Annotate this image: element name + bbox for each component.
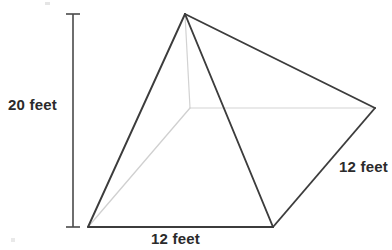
base-front-dimension-label: 12 feet — [151, 231, 200, 246]
base-right-dimension-label: 12 feet — [339, 159, 388, 174]
edge-apex-to-right — [185, 14, 375, 108]
visible-edges-group — [88, 14, 375, 227]
scan-artifact-bottom — [11, 238, 15, 242]
hidden-edge-apex-to-back-vertex — [185, 14, 190, 108]
scan-artifact-top — [45, 2, 50, 5]
pyramid-figure: 20 feet 12 feet 12 feet — [0, 0, 392, 250]
hidden-edges-group — [88, 14, 375, 227]
height-ruler — [66, 14, 80, 227]
edge-apex-to-front-right — [185, 14, 273, 227]
height-dimension-label: 20 feet — [8, 97, 57, 112]
hidden-edge-back-vertex-to-front-left — [88, 108, 190, 227]
pyramid-drawing — [0, 0, 392, 250]
edge-apex-to-front-left — [88, 14, 185, 227]
